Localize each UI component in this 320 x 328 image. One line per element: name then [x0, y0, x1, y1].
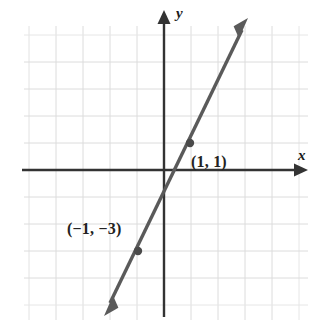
- point-label-neg1-neg3: (−1, −3): [67, 221, 122, 237]
- y-axis-label: y: [176, 6, 183, 21]
- point-label-1-1: (1, 1): [191, 154, 227, 170]
- y-axis: [158, 10, 171, 317]
- grid-lines: [24, 26, 308, 320]
- x-axis-arrowhead: [294, 164, 308, 177]
- x-axis-label: x: [298, 148, 306, 163]
- axes: [22, 10, 308, 317]
- point-marker-1-1: [186, 139, 194, 147]
- graph-canvas: [0, 0, 320, 328]
- coordinate-plane-figure: x y (1, 1) (−1, −3): [0, 0, 320, 328]
- point-marker-neg1-neg3: [134, 247, 142, 255]
- y-axis-arrowhead: [158, 10, 171, 24]
